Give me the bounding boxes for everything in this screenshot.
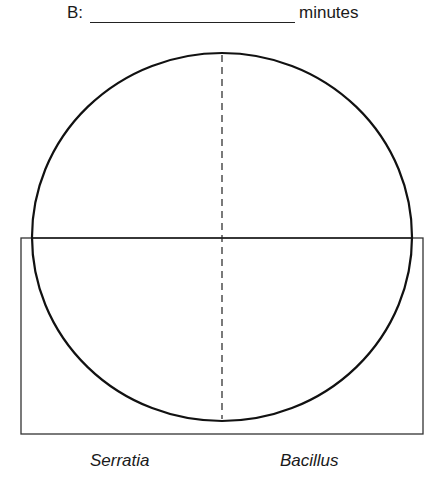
caption-bacillus: Bacillus bbox=[280, 451, 339, 471]
caption-serratia: Serratia bbox=[90, 451, 150, 471]
petri-dish-diagram bbox=[0, 0, 435, 488]
